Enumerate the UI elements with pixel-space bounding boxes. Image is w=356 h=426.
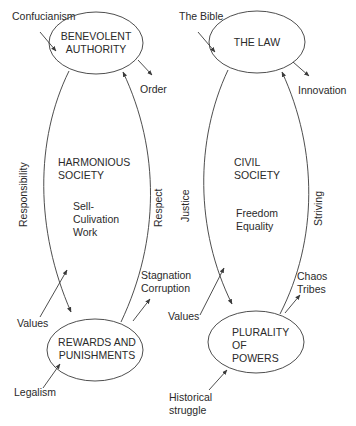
arrow-legalism-icon <box>43 364 60 388</box>
node-benevolent-authority: BENEVOLENT AUTHORITY <box>49 12 143 74</box>
center-sub-line2: Equality <box>236 220 274 232</box>
output-tribes: Tribes <box>297 283 326 295</box>
input-confucianism: Confucianism <box>12 10 76 22</box>
node-the-law: THE LAW <box>209 11 305 73</box>
label-responsibility: Responsibility <box>17 161 29 227</box>
arrow-stagnation-icon <box>133 299 150 321</box>
label-striving: Striving <box>312 191 324 226</box>
input-legalism: Legalism <box>14 386 56 398</box>
arrow-confucianism-icon <box>40 32 56 51</box>
center-title-line1: CIVIL <box>234 156 260 168</box>
input-historical: Historical <box>169 391 212 403</box>
label-justice: Justice <box>179 189 191 222</box>
svg-text:THE LAW: THE LAW <box>234 36 280 48</box>
arrow-order-icon <box>138 60 152 75</box>
left-diagram: Confucianism BENEVOLENT AUTHORITY Order … <box>12 10 191 398</box>
svg-text:REWARDS AND: REWARDS AND <box>58 336 136 348</box>
output-chaos: Chaos <box>297 270 327 282</box>
input-values: Values <box>168 310 199 322</box>
arrow-the-bible-icon <box>198 32 215 52</box>
center-title-line2: SOCIETY <box>234 169 280 181</box>
svg-text:BENEVOLENT: BENEVOLENT <box>61 30 132 42</box>
center-title-line2: SOCIETY <box>58 169 104 181</box>
label-respect: Respect <box>152 188 164 227</box>
node-plurality-of-powers: PLURALITY OF POWERS <box>208 311 304 373</box>
arrow-historical-struggle-icon <box>209 370 227 390</box>
input-values: Values <box>17 317 48 329</box>
output-order: Order <box>140 83 167 95</box>
center-title-line1: HARMONIOUS <box>58 156 130 168</box>
svg-text:OF: OF <box>232 339 247 351</box>
svg-text:AUTHORITY: AUTHORITY <box>66 43 127 55</box>
svg-text:PLURALITY: PLURALITY <box>232 326 289 338</box>
node-rewards-punishments: REWARDS AND PUNISHMENTS <box>47 319 143 381</box>
center-sub-line2: Culivation <box>73 213 119 225</box>
output-stagnation: Stagnation <box>141 269 191 281</box>
arrow-innovation-icon <box>293 62 309 76</box>
center-sub-line1: Sell- <box>73 200 95 212</box>
input-the-bible: The Bible <box>179 10 224 22</box>
output-innovation: Innovation <box>298 84 347 96</box>
right-diagram: The Bible THE LAW Innovation Justice Str… <box>168 10 347 416</box>
svg-text:POWERS: POWERS <box>232 352 279 364</box>
arrow-values-icon <box>40 270 67 317</box>
edge-justice-icon <box>204 70 232 304</box>
output-corruption: Corruption <box>141 282 190 294</box>
diagram-canvas: Confucianism BENEVOLENT AUTHORITY Order … <box>0 0 356 426</box>
arrow-values-icon <box>200 268 224 315</box>
edge-responsibility-icon <box>44 71 71 312</box>
input-struggle: struggle <box>169 404 207 416</box>
center-sub-line3: Work <box>73 226 98 238</box>
center-sub-line1: Freedom <box>236 207 278 219</box>
svg-text:PUNISHMENTS: PUNISHMENTS <box>59 349 135 361</box>
